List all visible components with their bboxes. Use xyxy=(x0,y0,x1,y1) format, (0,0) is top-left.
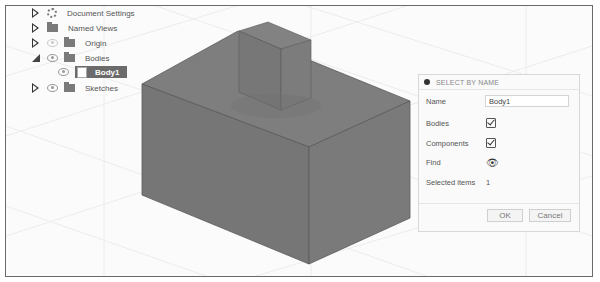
selected-items-row: Selected items 1 xyxy=(426,175,490,189)
expand-arrow-icon[interactable] xyxy=(32,38,39,48)
name-input[interactable]: Body1 xyxy=(485,95,569,107)
selected-body-label[interactable]: Body1 xyxy=(75,66,127,78)
eye-icon[interactable] xyxy=(47,39,58,47)
eye-icon[interactable] xyxy=(58,68,69,76)
expand-arrow-icon[interactable] xyxy=(32,83,39,93)
expand-arrow-icon[interactable] xyxy=(32,8,39,18)
dialog-divider xyxy=(419,203,579,204)
tree-item-origin[interactable]: Origin xyxy=(32,36,106,50)
name-label: Name xyxy=(426,97,486,106)
gear-icon xyxy=(47,8,57,18)
ok-button[interactable]: OK xyxy=(487,209,523,222)
browser-tree: Document Settings Named Views Origin Bod… xyxy=(6,6,226,116)
components-row: Components xyxy=(426,136,496,150)
binoculars-icon[interactable]: 👁 xyxy=(486,157,499,168)
cancel-button[interactable]: Cancel xyxy=(529,209,571,222)
tree-item-document-settings[interactable]: Document Settings xyxy=(32,6,135,20)
dialog-collapse-icon[interactable] xyxy=(424,79,430,85)
find-label: Find xyxy=(426,158,486,167)
dialog-header[interactable]: SELECT BY NAME xyxy=(419,75,579,90)
tree-item-body1[interactable]: Body1 xyxy=(58,65,127,79)
folder-icon xyxy=(64,84,75,92)
selected-items-label: Selected items xyxy=(426,178,486,187)
name-row: Name xyxy=(426,94,486,108)
eye-icon[interactable] xyxy=(47,54,58,62)
selected-items-count: 1 xyxy=(486,178,490,187)
select-by-name-dialog: SELECT BY NAME Name Body1 Bodies Compone… xyxy=(418,74,580,232)
bodies-label: Bodies xyxy=(426,119,486,128)
components-checkbox[interactable] xyxy=(486,138,496,148)
collapse-arrow-icon[interactable] xyxy=(32,54,40,62)
folder-icon xyxy=(47,24,58,32)
tree-item-sketches[interactable]: Sketches xyxy=(32,81,118,95)
eye-icon[interactable] xyxy=(47,84,58,92)
dialog-title: SELECT BY NAME xyxy=(436,79,499,86)
find-row: Find 👁 xyxy=(426,155,499,169)
body-icon xyxy=(77,67,87,78)
bodies-checkbox[interactable] xyxy=(486,118,496,128)
canvas-frame: Document Settings Named Views Origin Bod… xyxy=(5,5,593,277)
tree-item-named-views[interactable]: Named Views xyxy=(32,21,117,35)
components-label: Components xyxy=(426,139,486,148)
tree-item-bodies[interactable]: Bodies xyxy=(32,51,109,65)
folder-icon xyxy=(64,39,75,47)
bodies-row: Bodies xyxy=(426,116,496,130)
folder-icon xyxy=(64,54,75,62)
expand-arrow-icon[interactable] xyxy=(32,23,39,33)
